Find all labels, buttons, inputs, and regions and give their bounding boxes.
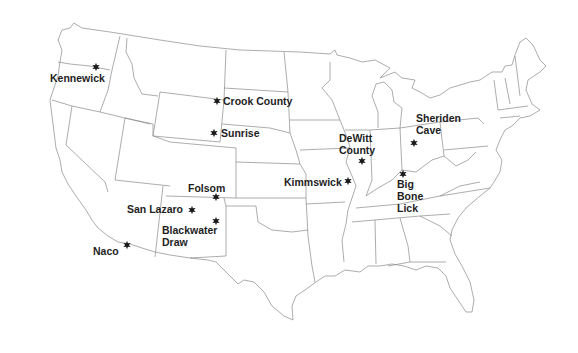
site-label: Folsom [188,182,225,194]
site-label: San Lazaro [127,203,183,215]
site-label: Sunrise [221,127,260,139]
site-label: Kimmswick [284,176,342,188]
site-crook-county: Crook County [213,95,292,107]
us-map: KennewickCrook CountySunriseDeWittCounty… [0,0,578,353]
site-label: Kennewick [50,72,105,84]
site-naco: Naco [93,241,131,257]
us-outline [50,23,546,320]
site-label: Crook County [223,95,293,107]
site-label: DeWittCounty [339,132,375,156]
site-kimmswick: Kimmswick [284,176,352,188]
state-borders [50,23,546,320]
site-label: Naco [93,245,119,257]
